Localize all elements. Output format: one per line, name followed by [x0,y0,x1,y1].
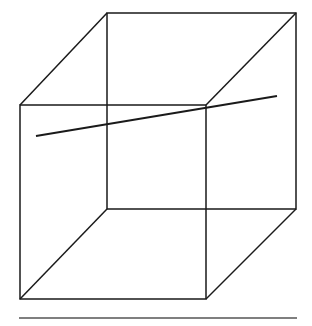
figure-canvas [0,0,312,326]
figure-background [0,0,312,326]
wireframe-cube-drawing [0,0,312,326]
